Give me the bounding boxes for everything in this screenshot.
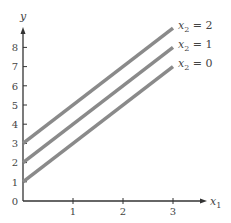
y-tick-label: 0 xyxy=(12,196,18,207)
series-label-x2-eq-2: x2 = 2 xyxy=(178,19,213,34)
series-label-x2-eq-0: x2 = 0 xyxy=(178,57,213,72)
line-x2-eq-1 xyxy=(23,47,173,162)
y-tick-label: 2 xyxy=(12,157,18,168)
y-axis-label: y xyxy=(19,10,27,23)
y-tick-label: 8 xyxy=(12,42,18,53)
x-axis-label: x1 xyxy=(210,195,221,210)
chart: 1 2 3 0 1 2 3 4 5 6 7 8 y x1 x2 = 2 x2 =… xyxy=(0,0,231,223)
x-axis-arrow-icon xyxy=(200,199,207,204)
y-tick-label: 4 xyxy=(12,119,18,130)
series-label-x2-eq-1: x2 = 1 xyxy=(178,38,213,53)
x-tick-label: 3 xyxy=(170,206,176,217)
x-tick-label: 1 xyxy=(70,206,76,217)
y-axis-arrow-icon xyxy=(21,27,26,34)
y-tick-label: 3 xyxy=(12,138,18,149)
x-tick-label: 2 xyxy=(120,206,126,217)
y-tick-label: 7 xyxy=(12,61,18,72)
y-tick-label: 1 xyxy=(12,177,18,188)
series-lines xyxy=(23,28,173,182)
y-tick-label: 6 xyxy=(12,81,18,92)
y-tick-label: 5 xyxy=(12,100,18,111)
